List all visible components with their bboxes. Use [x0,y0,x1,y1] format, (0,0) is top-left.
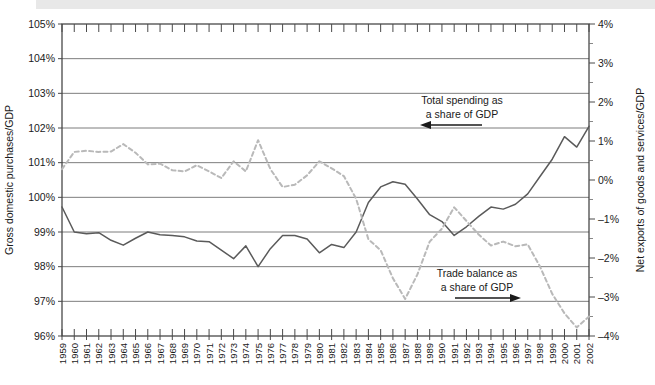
ytick-label-left: 105% [28,18,55,30]
ytick-label-right: –1% [598,213,619,225]
xtick-label: 1961 [81,343,92,364]
series-line-total-spending [62,126,589,266]
xtick-label: 1995 [498,343,509,364]
xtick-label: 2000 [559,343,570,364]
ytick-label-right: 2% [598,96,613,108]
ytick-label-right: 3% [598,57,613,69]
xtick-label: 1978 [289,343,300,364]
xtick-label: 1993 [473,343,484,364]
ytick-label-left: 96% [34,330,55,342]
xtick-label: 1963 [106,343,117,364]
xtick-label: 1988 [412,343,423,364]
ytick-label-left: 98% [34,260,55,272]
xtick-label: 2002 [584,343,595,364]
xtick-label: 1997 [522,343,533,364]
ytick-label-right: 1% [598,135,613,147]
xtick-label: 1983 [351,343,362,364]
xtick-label: 1977 [277,343,288,364]
xtick-label: 1968 [167,343,178,364]
ytick-label-left: 99% [34,226,55,238]
ytick-label-right: –2% [598,252,619,264]
ytick-label-right: –3% [598,291,619,303]
trade-balance-annotation-line1: Trade balance as [437,267,518,279]
xtick-label: 1966 [142,343,153,364]
trade-balance-arrow-head [510,294,521,302]
xtick-label: 1982 [338,343,349,364]
xtick-label: 1996 [510,343,521,364]
ytick-label-left: 101% [28,156,55,168]
xtick-label: 1974 [240,343,251,364]
xtick-label: 1984 [363,343,374,364]
xtick-label: 1981 [326,343,337,364]
xtick-label: 1973 [228,343,239,364]
ytick-label-left: 100% [28,191,55,203]
xtick-label: 1994 [485,343,496,364]
trade-balance-annotation-line2: a share of GDP [441,281,513,293]
xtick-label: 1967 [155,343,166,364]
ytick-label-right: –4% [598,330,619,342]
ytick-label-right: 4% [598,18,613,30]
xtick-label: 1969 [179,343,190,364]
chart-svg: 96%97%98%99%100%101%102%103%104%105%–4%–… [0,0,655,385]
ytick-label-left: 103% [28,87,55,99]
xtick-label: 1986 [387,343,398,364]
xtick-label: 1991 [449,343,460,364]
xtick-label: 1971 [204,343,215,364]
xtick-label: 1975 [253,343,264,364]
xtick-label: 1999 [547,343,558,364]
xtick-label: 2001 [571,343,582,364]
y2-axis-title: Net exports of goods and services/GDP [634,88,646,272]
ytick-label-left: 102% [28,122,55,134]
xtick-label: 1985 [375,343,386,364]
xtick-label: 1962 [93,343,104,364]
xtick-label: 1976 [265,343,276,364]
total-spending-annotation-line1: Total spending as [421,94,503,106]
xtick-label: 1964 [118,343,129,364]
xtick-label: 1959 [57,343,68,364]
y-axis-title: Gross domestic purchases/GDP [3,105,15,255]
xtick-label: 1980 [314,343,325,364]
xtick-label: 1970 [191,343,202,364]
series-line-trade-balance [62,140,589,327]
ytick-label-left: 104% [28,52,55,64]
xtick-label: 1987 [400,343,411,364]
ytick-label-right: 0% [598,174,613,186]
xtick-label: 1989 [424,343,435,364]
xtick-label: 1965 [130,343,141,364]
xtick-label: 1960 [69,343,80,364]
ytick-label-left: 97% [34,295,55,307]
xtick-label: 1990 [436,343,447,364]
xtick-label: 1992 [461,343,472,364]
total-spending-annotation-line2: a share of GDP [426,108,498,120]
xtick-label: 1998 [534,343,545,364]
chart-figure: 96%97%98%99%100%101%102%103%104%105%–4%–… [0,0,655,385]
xtick-label: 1979 [302,343,313,364]
xtick-label: 1972 [216,343,227,364]
